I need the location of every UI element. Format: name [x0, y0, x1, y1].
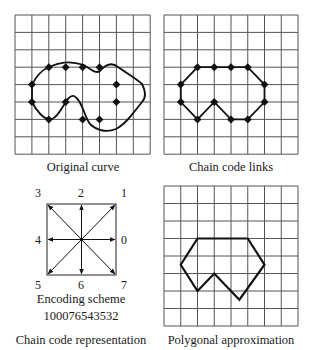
direction-label-6: 6	[78, 278, 84, 293]
direction-arrow-7	[82, 240, 116, 275]
encoding-scheme-title: Encoding scheme	[37, 292, 126, 307]
chain-link-points	[177, 63, 269, 123]
chain-links-path	[181, 67, 265, 119]
direction-label-1: 1	[121, 186, 127, 201]
direction-label-2: 2	[78, 186, 84, 201]
caption-polygonal-approximation: Polygonal approximation	[168, 333, 295, 348]
direction-label-0: 0	[121, 233, 127, 248]
direction-arrow-3	[48, 205, 82, 240]
direction-label-3: 3	[35, 186, 41, 201]
caption-chain-code-links: Chain code links	[189, 160, 273, 175]
direction-label-5: 5	[35, 278, 41, 293]
encoding-square	[47, 204, 116, 275]
caption-original-curve: Original curve	[47, 160, 120, 175]
chain-code-value: 100076543532	[44, 309, 119, 324]
grid-polygon	[164, 186, 298, 326]
direction-label-7: 7	[121, 278, 127, 293]
caption-chain-code-representation: Chain code representation	[16, 333, 147, 348]
direction-label-4: 4	[35, 233, 41, 248]
direction-arrow-1	[82, 205, 116, 240]
direction-arrow-5	[48, 240, 82, 275]
